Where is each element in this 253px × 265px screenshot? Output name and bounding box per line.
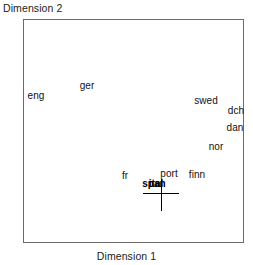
data-point-label-dch: dch <box>228 106 244 116</box>
data-point-label-eng: eng <box>28 91 45 101</box>
data-point-label-ger: ger <box>80 81 95 91</box>
y-axis-label: Dimension 2 <box>3 2 62 14</box>
crosshair-horizontal-bar <box>143 193 179 194</box>
data-point-label-fr: fr <box>122 171 128 181</box>
crosshair-marker <box>24 20 245 244</box>
data-point-label-finn: finn <box>189 170 205 180</box>
x-axis-label: Dimension 1 <box>0 250 253 262</box>
scatter-plot-figure: Dimension 2 enggersweddchdannorfrportfin… <box>0 0 253 265</box>
data-point-label-swed: swed <box>194 96 218 106</box>
data-point-label-nor: nor <box>209 142 224 152</box>
plot-area: enggersweddchdannorfrportfinnitalspan <box>23 19 244 243</box>
data-point-label-span: span <box>142 179 166 189</box>
data-point-label-dan: dan <box>227 123 244 133</box>
